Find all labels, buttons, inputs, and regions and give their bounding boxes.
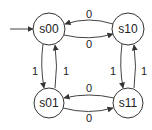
transition-s10-to-s00 (65, 20, 113, 24)
transition-label-s10-s11: 1 (110, 65, 116, 77)
transition-s11-to-s10 (134, 45, 136, 88)
transition-s01-to-s11 (63, 108, 113, 112)
transition-label-s00-s01: 1 (32, 65, 38, 77)
state-s01: s01 (34, 88, 64, 118)
state-label-s01: s01 (39, 96, 59, 110)
transition-label-s10-s00: 0 (86, 8, 92, 20)
transition-label-s11-s10: 1 (141, 65, 147, 77)
state-s10: s10 (112, 13, 144, 45)
transition-label-s01-s11: 0 (86, 112, 92, 124)
transition-label-s00-s10: 0 (86, 38, 92, 50)
state-label-s10: s10 (118, 22, 138, 36)
transition-label-s01-s00: 1 (63, 65, 69, 77)
transition-s11-to-s01 (64, 95, 114, 98)
transition-s00-to-s01 (42, 44, 44, 88)
state-diagram: 0 0 1 1 1 1 0 0 s00 s10 s01 s11 (0, 0, 152, 130)
transition-label-s11-s01: 0 (86, 82, 92, 94)
state-s11: s11 (113, 88, 143, 118)
state-s00: s00 (33, 13, 65, 45)
transition-s01-to-s00 (55, 45, 57, 88)
state-label-s00: s00 (39, 22, 59, 36)
state-label-s11: s11 (119, 96, 138, 110)
transition-s10-to-s11 (121, 44, 123, 88)
